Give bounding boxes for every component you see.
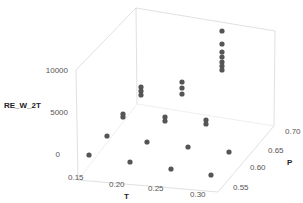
z-tick-5000: 5000 — [50, 108, 68, 117]
z-tick-0: 0 — [56, 150, 61, 159]
data-point[interactable] — [179, 79, 184, 84]
data-point[interactable] — [226, 149, 231, 154]
data-point[interactable] — [203, 121, 208, 126]
data-point[interactable] — [208, 172, 213, 177]
x-tick-0.20: 0.20 — [109, 180, 125, 189]
data-point[interactable] — [185, 144, 190, 149]
data-point[interactable] — [120, 114, 125, 119]
x-axis-label: T — [124, 192, 129, 201]
data-point[interactable] — [168, 166, 173, 171]
x-tick-0.30: 0.30 — [190, 190, 206, 199]
data-point[interactable] — [162, 118, 167, 123]
data-point[interactable] — [219, 28, 224, 33]
y-tick-0.70: 0.70 — [285, 127, 301, 136]
z-tick-10000: 10000 — [46, 66, 69, 75]
x-tick-0.25: 0.25 — [148, 184, 164, 193]
scatter-3d-chart: 10000 5000 0 RE_W_2T 0.15 0.20 0.25 0.30… — [0, 0, 303, 203]
y-tick-0.65: 0.65 — [268, 146, 284, 155]
data-point[interactable] — [179, 91, 184, 96]
data-point[interactable] — [219, 41, 224, 46]
data-point[interactable] — [144, 139, 149, 144]
data-point[interactable] — [104, 133, 109, 138]
z-axis: 10000 5000 0 RE_W_2T — [4, 66, 69, 159]
x-axis: 0.15 0.20 0.25 0.30 T — [68, 173, 206, 201]
y-axis-label: P — [287, 158, 293, 167]
data-point[interactable] — [219, 67, 224, 72]
data-points — [86, 28, 231, 177]
y-tick-0.60: 0.60 — [250, 163, 266, 172]
data-point[interactable] — [219, 49, 224, 54]
plot-frame — [76, 8, 275, 192]
z-axis-label: RE_W_2T — [4, 101, 41, 110]
data-point[interactable] — [86, 152, 91, 157]
y-tick-0.55: 0.55 — [233, 183, 249, 192]
data-point[interactable] — [138, 92, 143, 97]
x-tick-0.15: 0.15 — [68, 173, 84, 182]
data-point[interactable] — [127, 159, 132, 164]
data-point[interactable] — [219, 54, 224, 59]
y-axis: 0.55 0.60 0.65 0.70 P — [233, 127, 301, 192]
data-point[interactable] — [179, 85, 184, 90]
